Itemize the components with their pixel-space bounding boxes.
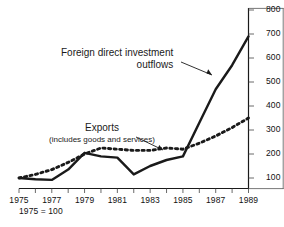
y-axis-ticks [249,10,255,178]
x-axis-tick-label: 1983 [133,195,167,205]
x-axis-tick-label: 1979 [68,195,102,205]
chart-container: 100200300400500600700800 197519771979198… [0,0,284,227]
fdi-leader-line [181,62,212,75]
fdi-annotation-line2: outflows [61,59,173,71]
exports-annotation: Exports (includes goods and services) [22,122,182,145]
y-axis-tick-label: 200 [255,148,281,158]
y-axis-tick-label: 800 [255,4,281,14]
y-axis-tick-label: 400 [255,100,281,110]
fdi-annotation: Foreign direct investment outflows [61,47,173,70]
x-axis-tick-label: 1981 [100,195,134,205]
exports-annotation-line1: Exports [22,122,182,134]
x-axis-tick-label: 1975 [2,195,36,205]
x-axis-tick-label: 1985 [166,195,200,205]
chart-plot [0,0,284,227]
y-axis-tick-label: 600 [255,52,281,62]
x-axis-tick-label: 1987 [199,195,233,205]
exports-annotation-line2: (includes goods and services) [22,134,182,146]
x-axis-tick-label: 1989 [232,195,266,205]
chart-footnote: 1975 = 100 [19,206,63,216]
y-axis-tick-label: 100 [255,172,281,182]
fdi-annotation-line1: Foreign direct investment [61,47,173,59]
y-axis-tick-label: 300 [255,124,281,134]
x-axis-tick-label: 1977 [35,195,69,205]
y-axis-tick-label: 500 [255,76,281,86]
y-axis-tick-label: 700 [255,28,281,38]
x-axis-ticks [19,189,249,194]
